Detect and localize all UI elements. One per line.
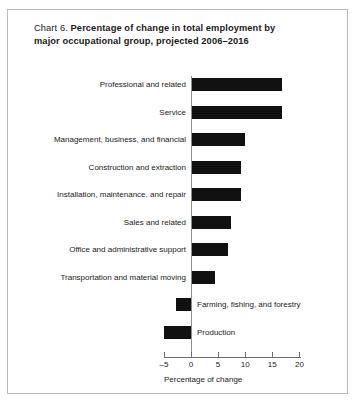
- x-tick-10: [245, 352, 246, 358]
- chart-title-text-1: Percentage of change in total employment…: [71, 23, 276, 33]
- bar-category-label: Service: [159, 107, 186, 118]
- bar-category-label: Construction and extraction: [89, 162, 186, 173]
- x-tick-5: [218, 352, 219, 358]
- bar-row: Construction and extraction: [8, 155, 349, 182]
- chart-frame: Chart 6. Percentage of change in total e…: [7, 9, 348, 394]
- x-tick-label-15: 15: [268, 360, 277, 369]
- plot-area: Professional and relatedServiceManagemen…: [8, 72, 349, 372]
- bar: [191, 216, 231, 229]
- bar-row: Farming, fishing, and forestry: [8, 292, 349, 319]
- bar-row: Professional and related: [8, 72, 349, 99]
- bar: [191, 133, 245, 146]
- x-tick-label--5: –5: [159, 360, 168, 369]
- bar-row: Sales and related: [8, 210, 349, 237]
- bar: [191, 188, 241, 201]
- bar: [191, 106, 282, 119]
- bar-row: Transportation and material moving: [8, 265, 349, 292]
- bar: [164, 326, 191, 339]
- bar-category-label: Farming, fishing, and forestry: [197, 299, 301, 310]
- bar-category-label: Transportation and material moving: [60, 272, 186, 283]
- chart-title-line-2: major occupational group, projected 2006…: [34, 35, 334, 48]
- zero-axis-line: [191, 76, 192, 352]
- bar-category-label: Production: [197, 327, 235, 338]
- bar-category-label: Management, business, and financial: [54, 134, 186, 145]
- x-tick-20: [299, 352, 300, 358]
- x-tick-label-10: 10: [241, 360, 250, 369]
- bar-category-label: Sales and related: [124, 217, 186, 228]
- x-tick-label-0: 0: [189, 360, 193, 369]
- chart-number: Chart 6.: [34, 23, 68, 33]
- bar-row: Production: [8, 320, 349, 347]
- bar: [191, 243, 228, 256]
- chart-title: Chart 6. Percentage of change in total e…: [34, 22, 334, 48]
- x-axis-line: [164, 357, 301, 358]
- bar: [176, 298, 191, 311]
- x-tick-15: [272, 352, 273, 358]
- chart-title-line-1: Chart 6. Percentage of change in total e…: [34, 22, 334, 35]
- x-tick-0: [191, 352, 192, 358]
- x-tick-label-20: 20: [295, 360, 304, 369]
- x-axis-title: Percentage of change: [164, 375, 242, 384]
- bar-row: Management, business, and financial: [8, 127, 349, 154]
- x-tick-label-5: 5: [216, 360, 220, 369]
- bar-row: Office and administrative support: [8, 237, 349, 264]
- bar: [191, 271, 215, 284]
- bar: [191, 78, 282, 91]
- bar-category-label: Installation, maintenance, and repair: [57, 189, 186, 200]
- bar-category-label: Professional and related: [100, 79, 186, 90]
- bar-row: Service: [8, 100, 349, 127]
- bar-row: Installation, maintenance, and repair: [8, 182, 349, 209]
- bar-category-label: Office and administrative support: [69, 244, 186, 255]
- x-tick--5: [164, 352, 165, 358]
- bar: [191, 161, 241, 174]
